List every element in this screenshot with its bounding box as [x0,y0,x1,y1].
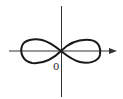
x-axis-arrowhead-icon [109,48,117,54]
lemniscate-diagram: 0 [0,0,123,99]
origin-label: 0 [53,61,59,72]
